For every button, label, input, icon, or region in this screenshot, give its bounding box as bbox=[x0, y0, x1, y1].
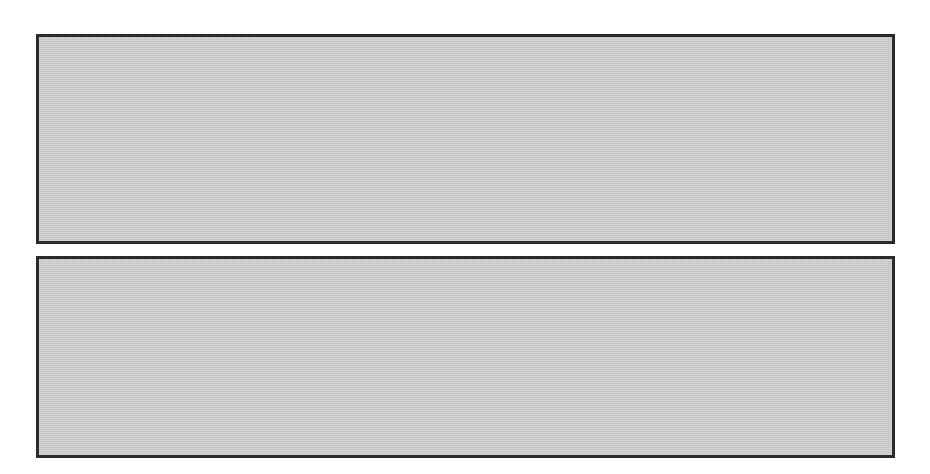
fsk-waveform-panel bbox=[36, 34, 895, 244]
ask-waveform-panel bbox=[36, 256, 895, 458]
ask-waveform-svg bbox=[39, 259, 892, 455]
fsk-waveform-svg bbox=[39, 37, 892, 241]
waveform-figure bbox=[0, 0, 930, 474]
